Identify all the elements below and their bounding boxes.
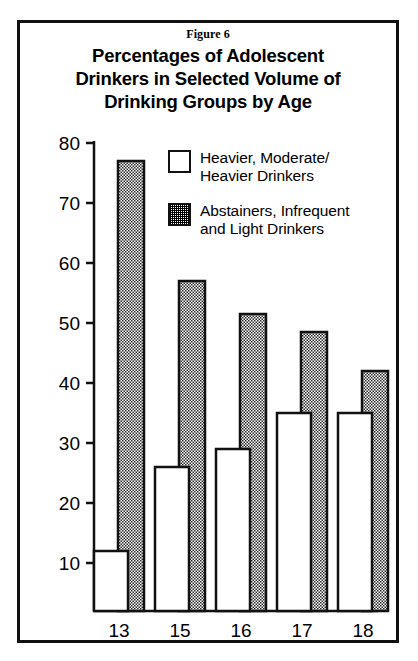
y-tick-label-20: 20 <box>59 493 80 514</box>
bar-open-18 <box>338 413 372 611</box>
bar-open-15 <box>155 467 189 611</box>
y-tick-label-40: 40 <box>59 373 80 394</box>
legend-label-heavier-moderate: Heavier, Moderate/ Heavier Drinkers <box>200 149 329 185</box>
x-tick-label-15: 15 <box>169 620 190 641</box>
x-tick-label-18: 18 <box>352 620 373 641</box>
bar-group-15 <box>155 281 205 611</box>
y-tick-labels: 80 70 60 50 40 30 20 10 <box>59 133 80 574</box>
bar-open-17 <box>277 413 311 611</box>
x-tick-label-16: 16 <box>230 620 251 641</box>
x-tick-label-13: 13 <box>108 620 129 641</box>
bar-group-16 <box>216 314 266 611</box>
legend-label-line-1: Abstainers, Infrequent <box>200 202 349 220</box>
bar-open-13 <box>94 551 128 611</box>
bar-open-16 <box>216 449 250 611</box>
legend-label-line-2: and Light Drinkers <box>200 220 349 238</box>
legend-item-heavier-moderate: Heavier, Moderate/ Heavier Drinkers <box>168 149 388 185</box>
x-tick-label-17: 17 <box>291 620 312 641</box>
y-tick-label-80: 80 <box>59 133 80 154</box>
bar-group-17 <box>277 332 327 611</box>
open-square-swatch <box>168 150 191 173</box>
y-tick-label-60: 60 <box>59 253 80 274</box>
chart-legend: Heavier, Moderate/ Heavier Drinkers Abst… <box>168 149 388 255</box>
legend-label-abstainers-light: Abstainers, Infrequent and Light Drinker… <box>200 202 349 238</box>
chart-plot-area: 80 70 60 50 40 30 20 10 <box>20 23 402 646</box>
y-tick-label-50: 50 <box>59 313 80 334</box>
bar-group-13 <box>94 161 144 611</box>
legend-item-abstainers-light: Abstainers, Infrequent and Light Drinker… <box>168 202 388 238</box>
y-tick-label-30: 30 <box>59 433 80 454</box>
x-tick-labels: 13 15 16 17 18 <box>108 620 373 641</box>
legend-label-line-1: Heavier, Moderate/ <box>200 149 329 167</box>
bar-hatched-13 <box>118 161 144 611</box>
legend-label-line-2: Heavier Drinkers <box>200 167 329 185</box>
bar-group-18 <box>338 371 388 611</box>
hatched-square-swatch <box>168 203 191 226</box>
y-tick-label-70: 70 <box>59 193 80 214</box>
bar-chart-svg: 80 70 60 50 40 30 20 10 <box>20 23 402 646</box>
y-tick-label-10: 10 <box>59 553 80 574</box>
figure-frame: Figure 6 Percentages of Adolescent Drink… <box>17 20 399 643</box>
